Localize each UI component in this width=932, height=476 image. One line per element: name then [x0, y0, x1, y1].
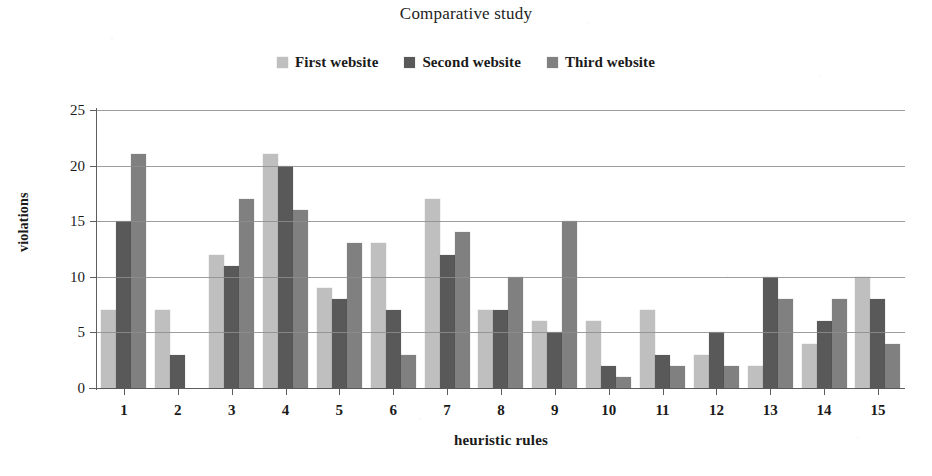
- bar[interactable]: [224, 266, 239, 388]
- x-tick-label: 2: [174, 402, 182, 419]
- bar[interactable]: [724, 366, 739, 388]
- x-tick-label: 13: [763, 402, 778, 419]
- x-axis-title: heuristic rules: [97, 432, 905, 449]
- x-tick-mark: [878, 388, 879, 395]
- bar[interactable]: [170, 355, 185, 388]
- y-tick-mark: [90, 166, 97, 167]
- y-tick-mark: [90, 388, 97, 389]
- bar-group: 1: [97, 110, 151, 388]
- bar[interactable]: [347, 243, 362, 388]
- bar-group: 3: [205, 110, 259, 388]
- x-axis-line: [89, 388, 905, 389]
- x-tick-label: 6: [389, 402, 397, 419]
- bar[interactable]: [332, 299, 347, 388]
- bar[interactable]: [293, 210, 308, 388]
- y-tick-label: 25: [70, 102, 85, 119]
- x-tick-mark: [447, 388, 448, 395]
- bar-group: 5: [312, 110, 366, 388]
- bar[interactable]: [317, 288, 332, 388]
- x-tick-mark: [124, 388, 125, 395]
- x-tick-mark: [716, 388, 717, 395]
- bar[interactable]: [640, 310, 655, 388]
- bar[interactable]: [455, 232, 470, 388]
- bar[interactable]: [478, 310, 493, 388]
- y-tick-mark: [90, 277, 97, 278]
- legend-item[interactable]: Second website: [404, 54, 520, 71]
- bar[interactable]: [532, 321, 547, 388]
- legend-swatch-icon: [404, 57, 415, 68]
- bar-group: 2: [151, 110, 205, 388]
- bar-group: 13: [743, 110, 797, 388]
- bar[interactable]: [547, 332, 562, 388]
- chart-legend: First websiteSecond websiteThird website: [0, 54, 932, 71]
- x-tick-label: 8: [497, 402, 505, 419]
- x-tick-label: 14: [817, 402, 832, 419]
- comparative-study-bar-chart: Comparative study First websiteSecond we…: [0, 0, 932, 476]
- y-axis-title: violations: [16, 192, 32, 252]
- bar[interactable]: [155, 310, 170, 388]
- x-tick-label: 9: [551, 402, 559, 419]
- gridline: [97, 332, 905, 333]
- bar[interactable]: [401, 355, 416, 388]
- bar[interactable]: [832, 299, 847, 388]
- bar-group: 4: [259, 110, 313, 388]
- y-tick-mark: [90, 110, 97, 111]
- x-tick-label: 1: [120, 402, 128, 419]
- x-tick-mark: [663, 388, 664, 395]
- gridline: [97, 221, 905, 222]
- bar[interactable]: [586, 321, 601, 388]
- bar[interactable]: [870, 299, 885, 388]
- gridline: [97, 277, 905, 278]
- bar[interactable]: [601, 366, 616, 388]
- x-tick-label: 12: [709, 402, 724, 419]
- x-tick-mark: [393, 388, 394, 395]
- x-tick-label: 11: [655, 402, 669, 419]
- bar[interactable]: [386, 310, 401, 388]
- bar-group: 14: [797, 110, 851, 388]
- x-tick-label: 5: [336, 402, 344, 419]
- x-tick-mark: [609, 388, 610, 395]
- x-tick-label: 4: [282, 402, 290, 419]
- bar-group: 6: [366, 110, 420, 388]
- bar-groups: 123456789101112131415: [97, 110, 905, 388]
- bar[interactable]: [655, 355, 670, 388]
- legend-label: Second website: [422, 54, 520, 71]
- bar[interactable]: [778, 299, 793, 388]
- legend-item[interactable]: First website: [277, 54, 378, 71]
- x-tick-mark: [501, 388, 502, 395]
- bar[interactable]: [616, 377, 631, 388]
- bar-group: 15: [851, 110, 905, 388]
- y-tick-label: 0: [78, 380, 86, 397]
- bar[interactable]: [493, 310, 508, 388]
- bar[interactable]: [239, 199, 254, 388]
- bar[interactable]: [209, 255, 224, 388]
- x-tick-mark: [339, 388, 340, 395]
- bar[interactable]: [562, 221, 577, 388]
- bar[interactable]: [131, 154, 146, 388]
- bar[interactable]: [440, 255, 455, 388]
- legend-item[interactable]: Third website: [547, 54, 655, 71]
- x-tick-label: 7: [443, 402, 451, 419]
- bar-group: 11: [636, 110, 690, 388]
- gridline: [97, 166, 905, 167]
- legend-swatch-icon: [547, 57, 558, 68]
- bar[interactable]: [748, 366, 763, 388]
- bar[interactable]: [263, 154, 278, 388]
- bar[interactable]: [885, 344, 900, 388]
- x-tick-mark: [555, 388, 556, 395]
- bar-group: 8: [474, 110, 528, 388]
- x-tick-mark: [286, 388, 287, 395]
- y-tick-mark: [90, 332, 97, 333]
- bar[interactable]: [802, 344, 817, 388]
- legend-swatch-icon: [277, 57, 288, 68]
- bar[interactable]: [817, 321, 832, 388]
- bar[interactable]: [709, 332, 724, 388]
- bar[interactable]: [101, 310, 116, 388]
- gridline: [97, 110, 905, 111]
- bar[interactable]: [425, 199, 440, 388]
- bar[interactable]: [116, 221, 131, 388]
- bar[interactable]: [371, 243, 386, 388]
- bar[interactable]: [670, 366, 685, 388]
- x-tick-label: 3: [228, 402, 236, 419]
- bar[interactable]: [694, 355, 709, 388]
